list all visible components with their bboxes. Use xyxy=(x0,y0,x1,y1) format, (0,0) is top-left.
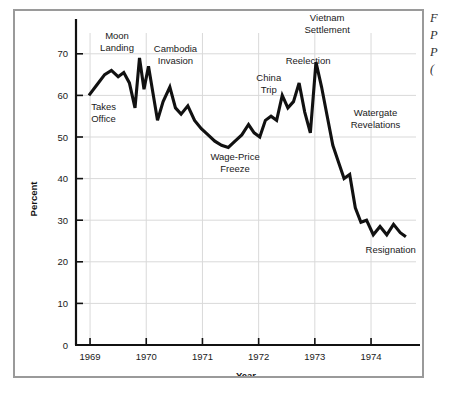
chart-annotation-label: Freeze xyxy=(220,163,250,174)
chart-annotation-label: Wage-Price xyxy=(210,151,259,162)
x-axis-tick-label: 1969 xyxy=(79,351,100,362)
y-axis-tick-label: 0 xyxy=(63,340,68,351)
side-caption-line: F xyxy=(430,10,450,27)
chart-annotation-label: Landing xyxy=(100,42,134,53)
x-axis-tick-label: 1973 xyxy=(304,351,325,362)
x-axis-title: Year xyxy=(236,370,256,376)
chart-annotation-label: Trip xyxy=(261,84,277,95)
x-axis-tick-label: 1971 xyxy=(192,351,213,362)
chart-annotation-label: Moon xyxy=(105,30,129,41)
y-axis-ticks-group: 010203040506070 xyxy=(57,48,83,350)
y-axis-tick-label: 40 xyxy=(57,173,68,184)
chart-frame: 010203040506070 196919701971197219731974… xyxy=(13,9,424,378)
chart-annotation-label: Vietnam xyxy=(310,12,345,23)
y-axis-tick-label: 50 xyxy=(57,132,68,143)
chart-annotation-label: Revelations xyxy=(351,119,401,130)
approval-line-chart: 010203040506070 196919701971197219731974… xyxy=(15,11,422,376)
chart-annotation-label: Resignation xyxy=(366,244,416,255)
y-axis-tick-label: 10 xyxy=(57,298,68,309)
chart-annotation-label: Takes xyxy=(91,101,116,112)
chart-annotation-label: Reelection xyxy=(286,55,331,66)
y-axis-tick-label: 30 xyxy=(57,215,68,226)
x-axis-tick-label: 1972 xyxy=(248,351,269,362)
side-caption: FPP( xyxy=(430,10,450,90)
y-axis-title: Percent xyxy=(28,181,39,217)
figure-container: 010203040506070 196919701971197219731974… xyxy=(0,0,450,395)
x-axis-tick-label: 1970 xyxy=(136,351,157,362)
chart-annotation-label: Settlement xyxy=(304,24,350,35)
chart-annotation-label: Office xyxy=(91,113,116,124)
x-axis-tick-label: 1974 xyxy=(360,351,381,362)
x-axis-ticks-group: 196919701971197219731974 xyxy=(79,338,381,362)
gridlines-group xyxy=(76,54,416,304)
side-caption-line: P xyxy=(430,44,450,61)
chart-annotation-label: Watergate xyxy=(354,107,397,118)
y-axis-tick-label: 70 xyxy=(57,48,68,59)
y-axis-tick-label: 20 xyxy=(57,256,68,267)
x-gridlines-group xyxy=(90,33,371,345)
chart-annotation-label: Invasion xyxy=(158,55,193,66)
approval-data-line xyxy=(89,58,406,237)
chart-annotation-label: China xyxy=(256,72,282,83)
chart-annotation-label: Cambodia xyxy=(154,43,198,54)
y-axis-tick-label: 60 xyxy=(57,90,68,101)
side-caption-line: P xyxy=(430,27,450,44)
side-caption-line: ( xyxy=(430,61,450,78)
